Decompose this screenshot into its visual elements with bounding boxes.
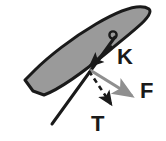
- label-t: T: [91, 111, 105, 136]
- diagram-canvas: K F T: [0, 0, 166, 141]
- force-diagram-figure: K F T: [0, 0, 166, 141]
- label-f: F: [140, 78, 153, 103]
- label-k: K: [117, 44, 133, 69]
- vector-f-arrow: [90, 70, 132, 96]
